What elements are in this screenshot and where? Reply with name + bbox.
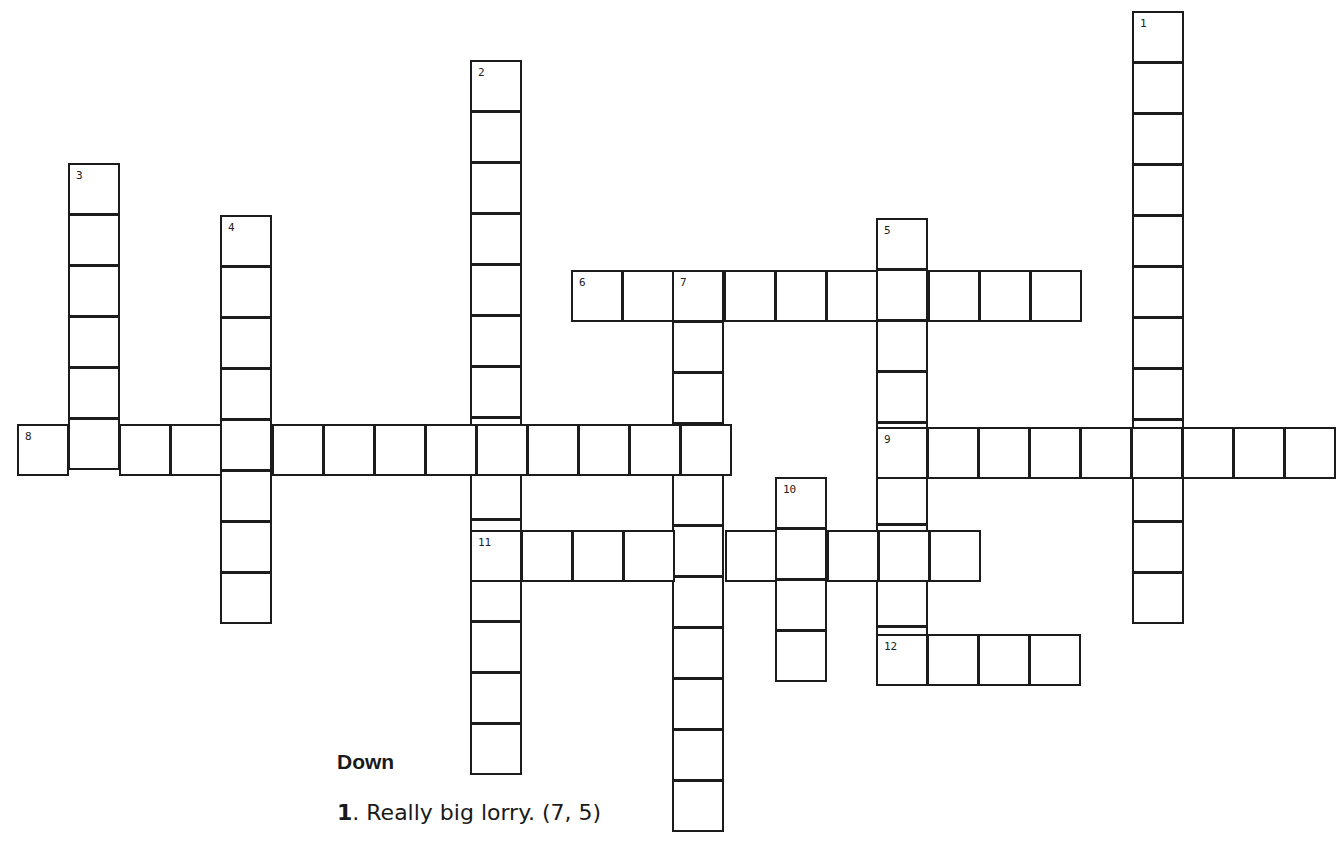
crossword-cell[interactable] [1029,634,1081,686]
crossword-cell[interactable] [876,473,928,525]
crossword-cell[interactable] [1284,427,1336,479]
crossword-cell[interactable]: 5 [876,218,928,270]
crossword-cell[interactable]: 12 [876,634,928,686]
clue-number-label: 2 [478,66,485,79]
crossword-cell[interactable] [672,525,724,577]
crossword-cell[interactable] [1132,113,1184,165]
crossword-cell[interactable] [623,530,675,582]
crossword-cell[interactable] [470,162,522,214]
crossword-cell[interactable] [978,427,1030,479]
crossword-cell[interactable] [1080,427,1132,479]
crossword-cell[interactable] [775,579,827,631]
crossword-cell[interactable] [826,270,878,322]
crossword-cell[interactable]: 9 [876,427,928,479]
crossword-cell[interactable] [470,264,522,316]
crossword-cell[interactable] [272,424,324,476]
crossword-cell[interactable] [578,424,630,476]
crossword-cell[interactable] [629,424,681,476]
crossword-cell[interactable] [979,270,1031,322]
clue-number-label: 10 [783,483,796,496]
crossword-cell[interactable] [724,270,776,322]
clue-number-label: 11 [478,536,491,549]
crossword-cell[interactable] [1132,521,1184,573]
crossword-cell[interactable] [374,424,426,476]
crossword-cell[interactable] [220,572,272,624]
crossword-cell[interactable] [220,470,272,522]
crossword-cell[interactable] [1029,427,1081,479]
crossword-cell[interactable]: 10 [775,477,827,529]
crossword-cell[interactable] [725,530,777,582]
crossword-cell[interactable] [1132,572,1184,624]
crossword-cell[interactable] [672,321,724,373]
crossword-cell[interactable] [425,424,477,476]
crossword-cell[interactable] [572,530,624,582]
crossword-cell[interactable] [1132,164,1184,216]
crossword-cell[interactable] [220,266,272,318]
crossword-cell[interactable] [220,317,272,369]
crossword-cell[interactable] [1132,266,1184,318]
crossword-cell[interactable] [622,270,674,322]
crossword-cell[interactable] [775,528,827,580]
crossword-cell[interactable] [672,627,724,679]
crossword-cell[interactable] [1131,427,1183,479]
crossword-cell[interactable] [470,315,522,367]
crossword-cell[interactable]: 8 [17,424,69,476]
crossword-cell[interactable] [1233,427,1285,479]
crossword-cell[interactable] [928,270,980,322]
crossword-cell[interactable] [927,427,979,479]
crossword-cell[interactable] [978,634,1030,686]
crossword-cell[interactable] [119,424,171,476]
crossword-cell[interactable] [1030,270,1082,322]
crossword-cell[interactable] [68,367,120,419]
crossword-cell[interactable] [672,372,724,424]
crossword-cell[interactable] [876,575,928,627]
crossword-cell[interactable] [876,320,928,372]
crossword-cell[interactable] [1132,215,1184,267]
down-heading: Down [337,750,601,774]
crossword-cell[interactable] [220,368,272,420]
crossword-cell[interactable] [878,530,930,582]
crossword-cell[interactable] [170,424,222,476]
crossword-cell[interactable] [876,371,928,423]
crossword-cell[interactable] [775,270,827,322]
crossword-cell[interactable] [68,316,120,368]
crossword-cell[interactable] [1132,62,1184,114]
crossword-cell[interactable] [827,530,879,582]
crossword-cell[interactable] [680,424,732,476]
crossword-cell[interactable] [470,672,522,724]
crossword-cell[interactable] [876,269,928,321]
clue-number-label: 5 [884,224,891,237]
crossword-cell[interactable] [68,265,120,317]
crossword-cell[interactable] [220,521,272,573]
clue-number-label: 3 [76,169,83,182]
crossword-cell[interactable] [1132,317,1184,369]
crossword-cell[interactable] [323,424,375,476]
crossword-cell[interactable]: 7 [672,270,724,322]
crossword-cell[interactable] [672,474,724,526]
crossword-cell[interactable] [220,419,272,471]
crossword-cell[interactable] [672,576,724,628]
crossword-cell[interactable]: 11 [470,530,522,582]
crossword-cell[interactable] [775,630,827,682]
crossword-cell[interactable] [470,213,522,265]
crossword-cell[interactable] [1182,427,1234,479]
crossword-cell[interactable] [470,366,522,418]
crossword-cell[interactable]: 1 [1132,11,1184,63]
crossword-cell[interactable] [527,424,579,476]
crossword-cell[interactable] [672,678,724,730]
crossword-cell[interactable] [68,214,120,266]
crossword-cell[interactable] [470,111,522,163]
crossword-cell[interactable] [927,634,979,686]
crossword-cell[interactable] [521,530,573,582]
crossword-cell[interactable]: 3 [68,163,120,215]
crossword-cell[interactable]: 6 [571,270,623,322]
crossword-cell[interactable]: 2 [470,60,522,112]
crossword-cell[interactable] [1132,368,1184,420]
crossword-cell[interactable] [929,530,981,582]
crossword-cell[interactable] [672,780,724,832]
crossword-cell[interactable]: 4 [220,215,272,267]
crossword-cell[interactable] [470,621,522,673]
crossword-cell[interactable] [68,418,120,470]
crossword-cell[interactable] [476,424,528,476]
crossword-cell[interactable] [672,729,724,781]
